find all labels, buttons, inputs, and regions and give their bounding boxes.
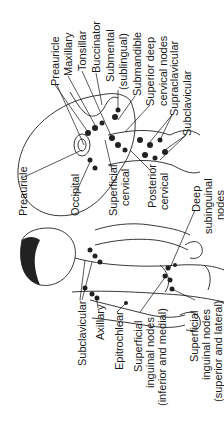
label-subclavicular-body: Subclavicular — [76, 301, 88, 366]
label-posterior-cervical-1: Posterior — [146, 164, 158, 208]
label-superficial-cervical-2: cervical — [119, 169, 131, 206]
label-superior-deep: Superior deep — [144, 37, 156, 106]
label-preauricle-body: Preauricle — [17, 166, 29, 216]
label-superficial-cervical-1: Superficial — [107, 165, 119, 216]
label-deep-3: nodes — [214, 190, 224, 220]
label-buccinator: Buccinator — [90, 21, 102, 73]
label-sup-inguinal-im-3: (inferior and medial) — [156, 308, 168, 406]
label-sup-inguinal-sl-2: inguinal nodes — [200, 309, 212, 380]
label-deep-2: subinguinal — [202, 178, 214, 234]
label-occipital: Occipital — [69, 174, 81, 216]
label-posterior-cervical-2: cervical — [158, 173, 170, 210]
label-subclavicular-head: Subclavicular — [181, 71, 193, 136]
label-supraclavicular: Supraclavicular — [168, 41, 180, 116]
label-submandible: Submandible — [131, 32, 143, 96]
label-sublingual: (sublingual) — [117, 33, 129, 90]
label-sup-inguinal-im-1: Superficial — [132, 321, 144, 372]
label-sup-inguinal-im-2: inguinal nodes — [144, 317, 156, 388]
label-maxillary: Maxillary — [62, 33, 74, 76]
label-epitrochlear: Epitrochlear — [113, 311, 125, 370]
label-sup-inguinal-sl-1: Superficial — [188, 311, 200, 362]
label-deep-1: Deep — [190, 186, 202, 212]
label-axillary: Axillary — [94, 305, 106, 340]
label-submental: Submental — [104, 29, 116, 82]
lymph-node-diagram: Preauricle Maxillary Tonsillar Buccinato… — [0, 0, 224, 436]
label-preauricle-head: Preauricle — [49, 36, 61, 86]
label-sup-inguinal-sl-3: (superior and lateral) — [212, 301, 224, 403]
hair-shading — [21, 237, 40, 285]
label-tonsillar: Tonsillar — [76, 31, 88, 71]
